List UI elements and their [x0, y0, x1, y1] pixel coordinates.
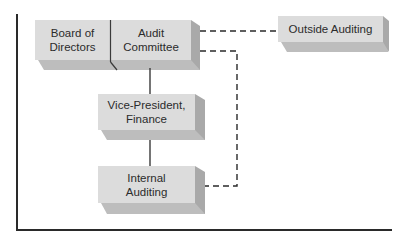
connector-lines	[0, 0, 410, 242]
org-chart-diagram: Board of Directors Audit Committee Outsi…	[0, 0, 410, 242]
dashed-edge-audit-to-internal	[200, 51, 237, 186]
board-audit-divider-tail	[111, 62, 118, 70]
